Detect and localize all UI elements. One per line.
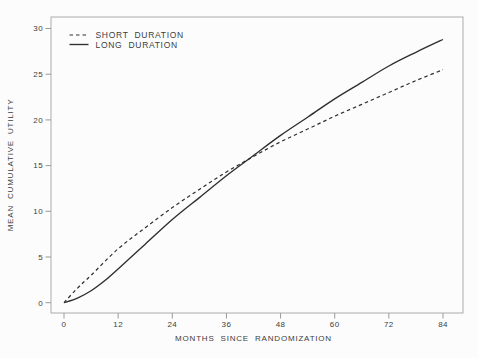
series-group: [64, 40, 443, 303]
series-line-short-duration: [64, 70, 443, 303]
line-chart: 051015202530012243648607284 SHORT DURATI…: [0, 0, 478, 358]
x-tick-label: 72: [384, 320, 394, 329]
x-tick-label: 12: [113, 320, 123, 329]
x-axis-title: MONTHS SINCE RANDOMIZATION: [175, 334, 332, 343]
plot-frame-group: [51, 17, 463, 313]
y-tick-label: 20: [33, 116, 43, 125]
x-tick-label: 60: [330, 320, 340, 329]
y-tick-label: 10: [33, 207, 43, 216]
y-tick-label: 5: [38, 253, 43, 262]
x-tick-label: 48: [276, 320, 286, 329]
legend-key-long-duration: LONG DURATION: [70, 40, 178, 50]
chart-figure: 051015202530012243648607284 SHORT DURATI…: [0, 0, 478, 358]
legend-key-short-duration: SHORT DURATION: [70, 30, 184, 40]
x-tick-label: 24: [167, 320, 177, 329]
legend: SHORT DURATIONLONG DURATION: [70, 30, 184, 50]
plot-frame: [51, 17, 463, 313]
legend-label: LONG DURATION: [96, 40, 178, 50]
series-line-long-duration: [64, 40, 443, 303]
x-tick-label: 84: [438, 320, 448, 329]
y-tick-label: 0: [38, 299, 43, 308]
axis-ticks-group: 051015202530012243648607284: [33, 24, 448, 329]
x-tick-label: 0: [62, 320, 67, 329]
legend-label: SHORT DURATION: [96, 30, 184, 40]
x-tick-label: 36: [222, 320, 232, 329]
y-tick-label: 25: [33, 70, 43, 79]
y-axis-title: MEAN CUMULATIVE UTILITY: [6, 99, 15, 232]
y-tick-label: 30: [33, 24, 43, 33]
y-tick-label: 15: [33, 161, 43, 170]
